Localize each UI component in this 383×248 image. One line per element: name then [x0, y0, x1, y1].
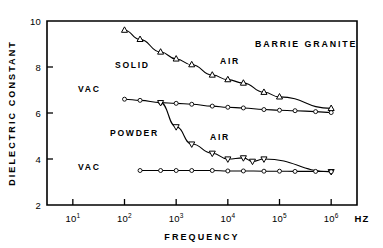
annotation-vac-lower: VAC [78, 162, 101, 172]
x-tick-label: 101 [65, 212, 80, 224]
data-series-layer [121, 27, 334, 175]
data-point-circle [210, 104, 214, 108]
chart-annotation-title: BARRIE GRANITE [255, 39, 357, 49]
data-point-circle [138, 169, 142, 173]
data-point-circle [278, 169, 282, 173]
x-axis-unit-label: HZ [354, 213, 369, 224]
x-tick-label: 102 [117, 212, 132, 224]
x-tick-label: 104 [220, 212, 235, 224]
data-point-circle [293, 169, 297, 173]
data-point-circle [190, 102, 194, 106]
series-line [140, 171, 331, 172]
data-point-circle [293, 109, 297, 113]
x-tick-label: 103 [169, 212, 184, 224]
data-point-circle [278, 108, 282, 112]
data-point-circle [314, 169, 318, 173]
series-solid-vac [123, 97, 334, 114]
x-axis-tick-labels: 101102103104105106 [65, 212, 338, 224]
data-point-circle [159, 169, 163, 173]
y-tick-label: 4 [36, 154, 41, 165]
data-point-circle [210, 169, 214, 173]
x-axis-ticks [73, 199, 331, 205]
y-tick-label: 8 [36, 62, 41, 73]
data-point-circle [190, 169, 194, 173]
y-axis-title: DIELECTRIC CONSTANT [7, 40, 17, 186]
data-point-circle [138, 98, 142, 102]
data-point-circle [329, 111, 333, 115]
y-tick-label: 10 [30, 16, 41, 27]
data-point-circle [241, 106, 245, 110]
x-axis-title: FREQUENCY [164, 232, 239, 242]
annotation-air-upper: AIR [220, 56, 240, 66]
y-tick-label: 6 [36, 108, 41, 119]
annotation-vac-upper: VAC [78, 84, 101, 94]
data-point-triangle-up [328, 105, 334, 110]
chart-canvas: 246810 101102103104105106 FREQUENCY HZ D… [0, 0, 383, 248]
y-axis-ticks [47, 67, 53, 159]
data-point-circle [241, 169, 245, 173]
data-point-triangle-down [249, 159, 255, 164]
data-point-circle [174, 169, 178, 173]
annotation-air-lower: AIR [210, 132, 230, 142]
x-tick-label: 106 [324, 212, 339, 224]
annotation-solid: SOLID [115, 60, 150, 70]
x-tick-label: 105 [272, 212, 287, 224]
data-point-circle [226, 169, 230, 173]
data-point-circle [262, 169, 266, 173]
series-powder-vac [138, 169, 333, 174]
data-point-triangle-down [225, 157, 231, 162]
data-point-circle [314, 110, 318, 114]
y-axis-tick-labels: 246810 [30, 16, 41, 211]
data-point-circle [226, 105, 230, 109]
data-point-circle [262, 108, 266, 112]
data-point-circle [174, 101, 178, 105]
series-line [161, 103, 332, 172]
y-tick-label: 2 [36, 200, 41, 211]
annotation-powder: POWDER [110, 128, 159, 138]
data-point-circle [329, 170, 333, 174]
data-point-triangle-up [121, 27, 127, 32]
data-point-circle [123, 97, 127, 101]
dielectric-constant-chart: 246810 101102103104105106 FREQUENCY HZ D… [0, 0, 383, 248]
